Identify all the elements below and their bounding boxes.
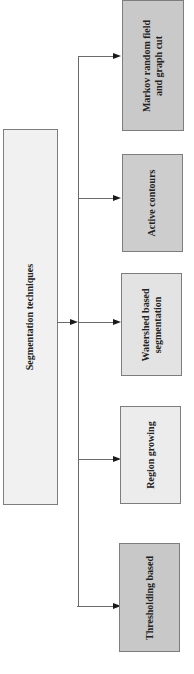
- branch-line-active-contours: [78, 198, 114, 199]
- label-line-1: Watershed based: [140, 288, 152, 361]
- child-node-label: Active contours: [147, 170, 159, 237]
- child-node-label: Watershed based segmentation: [140, 288, 164, 361]
- branch-line-thresholding: [77, 606, 114, 607]
- label-line-1: Active contours: [147, 170, 159, 237]
- child-node-label: Thresholding based: [144, 555, 156, 639]
- label-line-2: segmentation: [152, 288, 164, 361]
- label-line-2: and graph cut: [153, 19, 165, 111]
- root-node-label: Segmentation techniques: [25, 264, 37, 370]
- child-node-region-growing: Region growing: [120, 406, 181, 504]
- child-node-markov-random-field: Markov random field and graph cut: [122, 0, 184, 131]
- root-node-segmentation-techniques: Segmentation techniques: [3, 129, 58, 505]
- child-node-watershed: Watershed based segmentation: [121, 273, 182, 376]
- branch-line-region-growing: [78, 459, 114, 460]
- child-node-label: Region growing: [145, 421, 157, 488]
- branch-arrow-active-contours-icon: [113, 195, 121, 201]
- label-line-1: Thresholding based: [144, 555, 156, 639]
- branch-arrow-watershed-icon: [113, 319, 121, 325]
- label-line-1: Markov random field: [141, 19, 153, 111]
- child-node-thresholding: Thresholding based: [119, 543, 180, 652]
- root-connector-arrow-icon: [70, 319, 78, 325]
- bus-vertical-line: [78, 56, 79, 607]
- label-line-1: Region growing: [145, 421, 157, 488]
- branch-line-watershed: [78, 322, 114, 323]
- branch-line-markov: [78, 56, 114, 57]
- branch-arrow-markov-icon: [113, 53, 121, 59]
- child-node-active-contours: Active contours: [122, 154, 183, 252]
- child-node-label: Markov random field and graph cut: [141, 19, 165, 111]
